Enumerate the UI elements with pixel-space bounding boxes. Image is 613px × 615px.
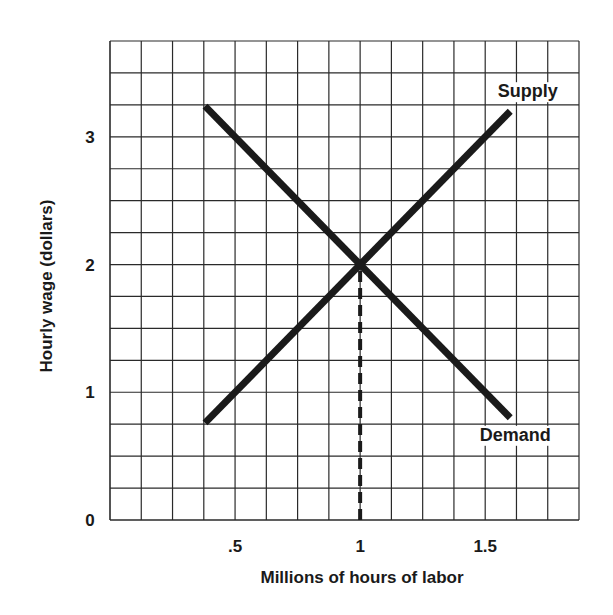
demand-curve (205, 106, 510, 418)
y-axis-label: Hourly wage (dollars) (37, 200, 56, 373)
series-labels: SupplyDemand (480, 81, 564, 446)
y-tick-label: 0 (85, 511, 94, 530)
supply-demand-chart: SupplyDemand .511.5 0123 Millions of hou… (0, 0, 613, 615)
supply-label: Supply (498, 81, 558, 101)
x-tick-label: 1 (355, 537, 364, 556)
y-tick-label: 3 (85, 128, 94, 147)
y-tick-label: 2 (85, 256, 94, 275)
x-axis-ticks: .511.5 (228, 537, 497, 556)
supply-curve (205, 111, 510, 423)
x-tick-label: .5 (228, 537, 242, 556)
demand-label: Demand (480, 425, 551, 445)
y-axis-ticks: 0123 (85, 128, 94, 530)
y-tick-label: 1 (85, 383, 94, 402)
x-axis-label: Millions of hours of labor (260, 568, 463, 587)
x-tick-label: 1.5 (473, 537, 497, 556)
